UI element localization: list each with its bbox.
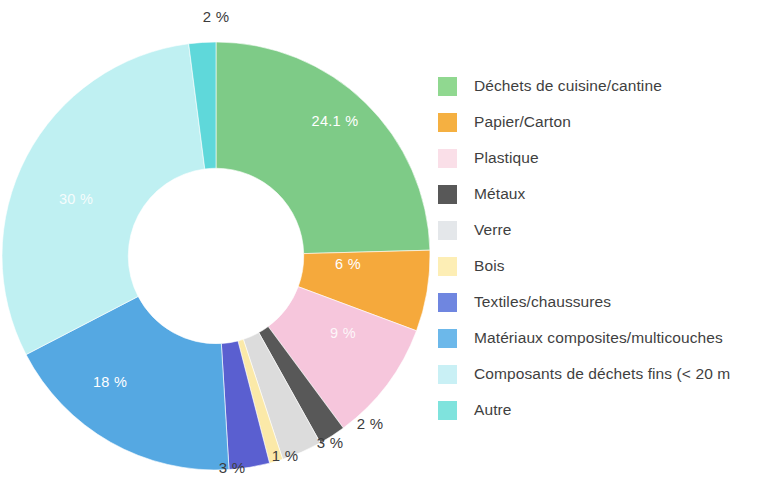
legend-swatch-icon bbox=[438, 365, 457, 384]
legend-item: Métaux bbox=[438, 176, 772, 212]
legend-item: Plastique bbox=[438, 140, 772, 176]
legend-swatch-icon bbox=[438, 149, 457, 168]
legend-item: Verre bbox=[438, 212, 772, 248]
legend-item-label: Matériaux composites/multicouches bbox=[474, 329, 723, 347]
legend-item: Autre bbox=[438, 392, 772, 428]
legend-item-label: Verre bbox=[474, 221, 512, 239]
legend-swatch-icon bbox=[438, 293, 457, 312]
legend-item: Composants de déchets fins (< 20 m bbox=[438, 356, 772, 392]
donut-slice bbox=[2, 44, 205, 355]
legend-item-label: Textiles/chaussures bbox=[474, 293, 611, 311]
legend-swatch-icon bbox=[438, 185, 457, 204]
legend-item-label: Déchets de cuisine/cantine bbox=[474, 77, 662, 95]
legend-swatch-icon bbox=[438, 113, 457, 132]
legend-swatch-icon bbox=[438, 257, 457, 276]
legend-item-label: Plastique bbox=[474, 149, 539, 167]
donut-slices bbox=[2, 42, 430, 470]
donut-slice bbox=[216, 42, 430, 254]
legend-swatch-icon bbox=[438, 401, 457, 420]
legend-swatch-icon bbox=[438, 329, 457, 348]
donut-chart-svg bbox=[0, 0, 440, 482]
legend-swatch-icon bbox=[438, 77, 457, 96]
legend-item-label: Bois bbox=[474, 257, 505, 275]
legend-item-label: Autre bbox=[474, 401, 512, 419]
legend-swatch-icon bbox=[438, 221, 457, 240]
chart-legend: Déchets de cuisine/cantine Papier/Carton… bbox=[438, 68, 772, 428]
legend-item: Textiles/chaussures bbox=[438, 284, 772, 320]
legend-item: Papier/Carton bbox=[438, 104, 772, 140]
legend-item-label: Métaux bbox=[474, 185, 525, 203]
legend-item-label: Papier/Carton bbox=[474, 113, 571, 131]
legend-item: Matériaux composites/multicouches bbox=[438, 320, 772, 356]
legend-item-label: Composants de déchets fins (< 20 m bbox=[474, 365, 730, 383]
donut-chart: 2 % 24.1 % 6 % 9 % 2 % 3 % 1 % 3 % 18 % … bbox=[0, 0, 440, 482]
legend-item: Déchets de cuisine/cantine bbox=[438, 68, 772, 104]
legend-item: Bois bbox=[438, 248, 772, 284]
